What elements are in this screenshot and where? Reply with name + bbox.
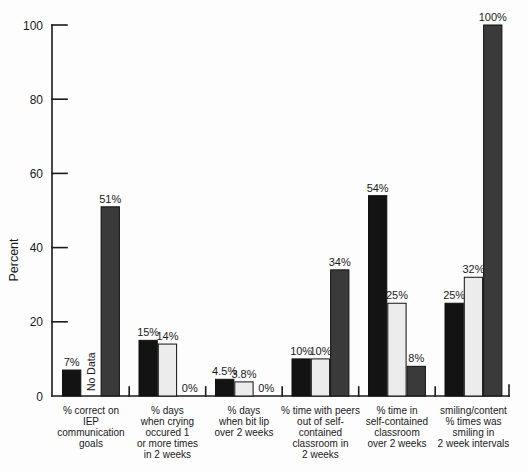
bar-value-label: 54% — [367, 182, 389, 194]
category-label: % times was — [445, 416, 501, 427]
bar-dark-gray-bars — [101, 207, 119, 396]
category-label: 2 weeks — [302, 449, 339, 460]
bar-dark-gray-bars — [331, 270, 349, 396]
scanned-figure-page: 020406080100Percent7%No Data51%% correct… — [0, 0, 528, 473]
y-tick-label: 100 — [23, 19, 43, 33]
category-label: contained — [299, 427, 342, 438]
bar-value-label: 51% — [99, 193, 121, 205]
bar-value-label: 10% — [309, 345, 331, 357]
bar-black-bars — [445, 303, 463, 396]
bar-black-bars — [292, 359, 310, 396]
bar-light-gray-bars — [388, 303, 406, 396]
y-tick-label: 0 — [36, 390, 43, 404]
y-tick-label: 60 — [30, 167, 44, 181]
category-label: 2 week intervals — [438, 438, 510, 449]
bar-value-label: 25% — [386, 289, 408, 301]
no-data-annotation: No Data — [85, 352, 97, 391]
category-label: % time with peers — [281, 405, 360, 416]
bar-value-label: 34% — [329, 256, 351, 268]
bar-dark-gray-bars — [484, 25, 502, 396]
bar-dark-gray-bars — [407, 366, 425, 396]
category-label: % days — [151, 405, 184, 416]
category-label: % correct on — [63, 405, 119, 416]
y-tick-label: 40 — [30, 241, 44, 255]
y-tick-label: 20 — [30, 315, 44, 329]
category-label: out of self- — [297, 416, 344, 427]
bar-value-label: 25% — [443, 289, 465, 301]
bar-value-label: 14% — [156, 330, 178, 342]
bar-light-gray-bars — [235, 382, 253, 396]
bar-black-bars — [63, 370, 81, 396]
bar-black-bars — [369, 196, 387, 396]
bar-value-label: 0% — [182, 382, 198, 394]
category-label: IEP — [83, 416, 99, 427]
category-label: smiling in — [453, 427, 495, 438]
category-label: when bit lip — [218, 416, 269, 427]
bar-value-label: 7% — [64, 356, 80, 368]
category-label: communication — [57, 427, 124, 438]
bar-value-label: 32% — [462, 263, 484, 275]
bar-light-gray-bars — [158, 344, 176, 396]
bar-black-bars — [139, 340, 157, 396]
bar-black-bars — [216, 379, 234, 396]
bar-light-gray-bars — [464, 277, 482, 396]
category-label: classroom — [374, 427, 420, 438]
category-label: smiling/content — [440, 405, 507, 416]
category-label: % time in — [376, 405, 417, 416]
category-label: goals — [79, 438, 103, 449]
bar-value-label: 0% — [258, 382, 274, 394]
category-label: self-contained — [366, 416, 428, 427]
category-label: in 2 weeks — [144, 449, 191, 460]
bar-value-label: 100% — [479, 11, 507, 23]
bar-value-label: 8% — [408, 352, 424, 364]
category-label: occured 1 — [145, 427, 189, 438]
bar-chart: 020406080100Percent7%No Data51%% correct… — [0, 0, 528, 473]
y-axis-title: Percent — [7, 238, 21, 282]
bar-light-gray-bars — [311, 359, 329, 396]
category-label: over 2 weeks — [367, 438, 426, 449]
category-label: % days — [228, 405, 261, 416]
category-label: when crying — [140, 416, 194, 427]
category-label: classroom in — [292, 438, 348, 449]
category-label: over 2 weeks — [214, 427, 273, 438]
bar-value-label: 3.8% — [231, 368, 256, 380]
y-tick-label: 80 — [30, 93, 44, 107]
category-label: or more times — [137, 438, 198, 449]
